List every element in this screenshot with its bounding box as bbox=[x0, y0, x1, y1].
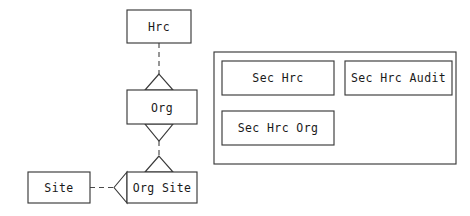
open-triangle-left-icon bbox=[114, 172, 127, 203]
entity-sec-hrc-org-label: Sec Hrc Org bbox=[238, 121, 319, 135]
entity-sec-hrc-audit[interactable]: Sec Hrc Audit bbox=[345, 61, 452, 95]
entity-site[interactable]: Site bbox=[28, 172, 90, 203]
connector-site-to-org-site bbox=[90, 172, 127, 203]
entity-org-site-label: Org Site bbox=[133, 181, 192, 195]
entity-hrc-label: Hrc bbox=[148, 20, 170, 34]
open-triangle-up-icon-2 bbox=[145, 156, 173, 172]
open-triangle-down-icon bbox=[145, 124, 173, 141]
entity-site-label: Site bbox=[44, 181, 73, 195]
entity-sec-hrc[interactable]: Sec Hrc bbox=[222, 61, 334, 95]
entity-org-site[interactable]: Org Site bbox=[127, 172, 197, 203]
entity-sec-hrc-org[interactable]: Sec Hrc Org bbox=[222, 111, 334, 145]
entity-org[interactable]: Org bbox=[127, 90, 197, 124]
connector-org-to-org-site bbox=[145, 124, 173, 172]
sec-group-panel: Sec Hrc Sec Hrc Audit Sec Hrc Org bbox=[214, 52, 456, 164]
entity-sec-hrc-label: Sec Hrc bbox=[252, 71, 303, 85]
entity-sec-hrc-audit-label: Sec Hrc Audit bbox=[351, 71, 446, 85]
entity-org-label: Org bbox=[151, 101, 173, 115]
entity-hrc[interactable]: Hrc bbox=[127, 10, 191, 43]
connector-hrc-to-org bbox=[145, 43, 173, 90]
open-triangle-up-icon bbox=[145, 74, 173, 90]
diagram-canvas: Hrc Org Org Site Site Sec Hrc Sec bbox=[0, 0, 470, 216]
diagram-svg: Hrc Org Org Site Site Sec Hrc Sec bbox=[0, 0, 470, 216]
